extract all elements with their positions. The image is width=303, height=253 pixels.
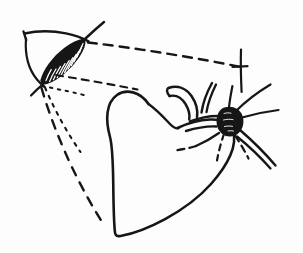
figure-root <box>0 0 303 253</box>
crosshair-vertical <box>241 50 242 93</box>
crosshair-horizontal-tick <box>233 66 248 67</box>
paper-background <box>0 0 303 253</box>
sketch-canvas <box>0 0 303 253</box>
